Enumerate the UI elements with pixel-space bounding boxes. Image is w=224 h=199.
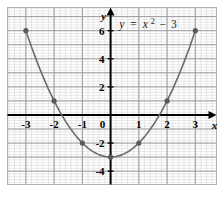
x-tick-label: 0 <box>100 118 106 130</box>
graph-figure: -3-2-10123 642-2-4 x y y = x 2 − 3 <box>0 0 224 199</box>
data-point-marker <box>108 155 113 160</box>
data-point-marker <box>193 28 198 33</box>
parabola-graph: -3-2-10123 642-2-4 x y y = x 2 − 3 <box>0 0 224 199</box>
data-point-marker <box>23 28 28 33</box>
data-point-marker <box>80 140 85 145</box>
equation-lhs: y <box>118 18 125 31</box>
x-tick-label: -1 <box>78 118 87 130</box>
x-axis-label: x <box>211 119 218 131</box>
equation-base: x <box>142 18 149 30</box>
data-point-marker <box>164 98 169 103</box>
y-tick-label: 6 <box>99 25 105 37</box>
x-tick-label: -2 <box>50 118 60 130</box>
x-tick-label: -3 <box>21 118 31 130</box>
y-tick-label: -4 <box>95 165 105 177</box>
data-point-marker <box>136 140 141 145</box>
y-tick-label: 2 <box>99 81 105 93</box>
x-tick-label: 2 <box>164 118 170 130</box>
y-tick-label: -2 <box>95 137 105 149</box>
y-axis-label: y <box>99 10 106 22</box>
equation-constant: 3 <box>171 18 177 30</box>
x-tick-label: 1 <box>136 118 142 130</box>
figure-background <box>0 0 224 199</box>
equation-equals: = <box>130 18 137 30</box>
data-point-marker <box>52 98 57 103</box>
equation-exponent: 2 <box>151 17 155 26</box>
equation-minus: − <box>160 18 167 30</box>
x-tick-label: 3 <box>193 118 199 130</box>
y-tick-label: 4 <box>99 53 105 65</box>
